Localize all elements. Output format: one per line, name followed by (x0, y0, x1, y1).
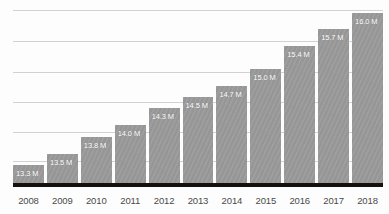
x-tick-label: 2009 (52, 195, 73, 206)
bar-slot: 16.0 M (352, 8, 383, 183)
x-tick-label: 2013 (188, 195, 209, 206)
x-tick-label: 2015 (256, 195, 277, 206)
bar-chart: 13.3 M13.5 M13.8 M14.0 M14.3 M14.5 M14.7… (0, 0, 389, 214)
bar[interactable]: 16.0 M (352, 13, 383, 183)
x-tick-slot: 2011 (115, 190, 146, 208)
bar[interactable]: 14.3 M (149, 108, 180, 183)
x-tick-slot: 2015 (250, 190, 281, 208)
x-tick-slot: 2014 (216, 190, 247, 208)
x-tick-label: 2011 (120, 195, 140, 206)
x-tick-slot: 2013 (183, 190, 214, 208)
bar[interactable]: 13.8 M (81, 137, 112, 183)
bar[interactable]: 14.0 M (115, 125, 146, 183)
x-tick-label: 2012 (154, 195, 175, 206)
x-tick-label: 2016 (289, 195, 310, 206)
x-tick-label: 2017 (323, 195, 344, 206)
bar[interactable]: 15.4 M (284, 46, 315, 183)
bar[interactable]: 13.3 M (13, 165, 44, 183)
bar[interactable]: 15.0 M (250, 69, 281, 183)
x-tick-slot: 2008 (13, 190, 44, 208)
bar-slot: 15.0 M (250, 8, 281, 183)
bar-slot: 14.5 M (183, 8, 214, 183)
bar-value-label: 16.0 M (355, 17, 377, 26)
bars-group: 13.3 M13.5 M13.8 M14.0 M14.3 M14.5 M14.7… (13, 8, 383, 183)
bar-value-label: 15.0 M (253, 73, 275, 82)
x-tick-slot: 2018 (352, 190, 383, 208)
bar-value-label: 14.7 M (219, 90, 241, 99)
bar[interactable]: 15.7 M (318, 29, 349, 183)
x-tick-label: 2014 (222, 195, 243, 206)
bar[interactable]: 14.7 M (216, 86, 247, 183)
axis-baseline (13, 183, 383, 187)
bar-value-label: 13.8 M (84, 141, 106, 150)
bar-slot: 15.4 M (284, 8, 315, 183)
bar[interactable]: 14.5 M (183, 97, 214, 183)
bar-value-label: 15.4 M (287, 50, 309, 59)
bar-slot: 13.8 M (81, 8, 112, 183)
x-tick-slot: 2009 (47, 190, 78, 208)
bar-value-label: 14.3 M (152, 112, 174, 121)
x-tick-label: 2010 (86, 195, 107, 206)
bar-value-label: 15.7 M (321, 33, 343, 42)
bar-value-label: 13.5 M (50, 158, 72, 167)
x-axis-labels: 2008200920102011201220132014201520162017… (13, 190, 383, 208)
x-tick-slot: 2012 (149, 190, 180, 208)
bar-slot: 13.5 M (47, 8, 78, 183)
x-tick-label: 2018 (357, 195, 378, 206)
x-tick-slot: 2017 (318, 190, 349, 208)
bar-slot: 14.0 M (115, 8, 146, 183)
bar-slot: 14.7 M (216, 8, 247, 183)
plot-area: 13.3 M13.5 M13.8 M14.0 M14.3 M14.5 M14.7… (13, 8, 383, 183)
bar-slot: 15.7 M (318, 8, 349, 183)
bar-value-label: 14.5 M (186, 101, 208, 110)
bar-value-label: 14.0 M (118, 129, 140, 138)
x-tick-slot: 2010 (81, 190, 112, 208)
x-tick-slot: 2016 (284, 190, 315, 208)
bar-slot: 13.3 M (13, 8, 44, 183)
x-tick-label: 2008 (18, 195, 39, 206)
bar-slot: 14.3 M (149, 8, 180, 183)
bar[interactable]: 13.5 M (47, 154, 78, 183)
bar-value-label: 13.3 M (16, 169, 38, 178)
